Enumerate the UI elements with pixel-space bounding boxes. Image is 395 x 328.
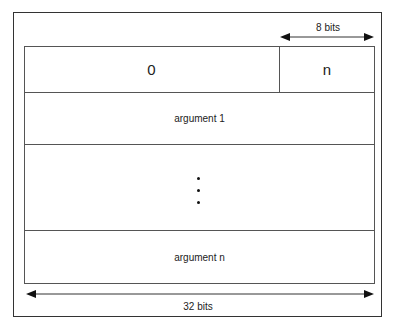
- bottom-dimension-label: 32 bits: [150, 299, 246, 313]
- dimension-arrows: [0, 0, 395, 328]
- bottom-dimension-arrow: [26, 290, 374, 298]
- top-dimension-arrow: [280, 33, 374, 41]
- top-dimension-label: 8 bits: [290, 20, 366, 34]
